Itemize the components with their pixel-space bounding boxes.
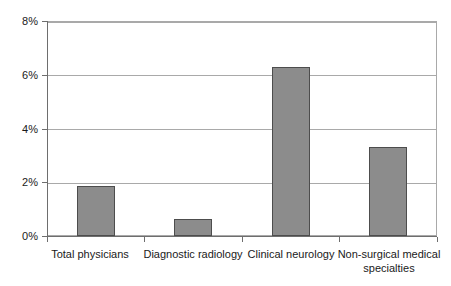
x-tick-mark-0 xyxy=(47,237,48,242)
bar-non-surgical-medical-specialties xyxy=(369,147,407,236)
gridline-4-percent xyxy=(48,129,436,130)
category-label-total-physicians: Total physicians xyxy=(40,247,140,261)
category-label-line-2: specialties xyxy=(330,261,448,275)
bar-diagnostic-radiology xyxy=(174,219,212,236)
category-label-non-surgical-medical-specialties: Non-surgical medical specialties xyxy=(330,247,448,275)
y-tick-mark-6 xyxy=(42,75,47,76)
x-tick-mark-1 xyxy=(144,237,145,242)
y-axis-line xyxy=(47,21,48,237)
category-label-line-1: Non-surgical medical xyxy=(330,247,448,261)
x-tick-mark-2 xyxy=(242,237,243,242)
bar-total-physicians xyxy=(77,186,115,236)
x-tick-mark-4 xyxy=(437,237,438,242)
gridline-6-percent xyxy=(48,75,436,76)
y-tick-label-4: 4% xyxy=(0,124,38,135)
y-tick-mark-2 xyxy=(42,182,47,183)
gridline-8-percent xyxy=(48,22,436,23)
y-tick-mark-4 xyxy=(42,129,47,130)
y-tick-label-6: 6% xyxy=(0,70,38,81)
y-tick-label-2: 2% xyxy=(0,177,38,188)
bar-clinical-neurology xyxy=(272,67,310,236)
y-tick-label-0: 0% xyxy=(0,231,38,242)
category-label-line-1: Total physicians xyxy=(40,247,140,261)
y-tick-label-8: 8% xyxy=(0,16,38,27)
bar-chart: 8% 6% 4% 2% 0% Total physicians Diagnost… xyxy=(0,0,451,286)
y-tick-mark-8 xyxy=(42,21,47,22)
x-tick-mark-3 xyxy=(339,237,340,242)
